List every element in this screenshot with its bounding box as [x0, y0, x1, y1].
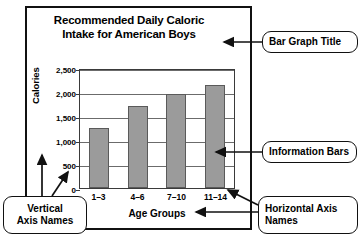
leader-xaxis-labels — [228, 190, 258, 205]
callout-bar-graph-title[interactable]: Bar Graph Title — [262, 31, 358, 53]
callout-horizontal-axis-names[interactable]: Horizontal Axis Names — [258, 196, 358, 234]
callout-bar-graph-title-label: Bar Graph Title — [269, 36, 341, 49]
callout-vertical-axis-line-1: Vertical — [27, 203, 63, 216]
callout-horizontal-axis-line-1: Horizontal Axis — [265, 203, 337, 216]
callout-information-bars-label: Information Bars — [269, 146, 349, 159]
callout-information-bars[interactable]: Information Bars — [262, 141, 357, 163]
figure-stage: Recommended Daily Caloric Intake for Ame… — [0, 0, 361, 243]
callout-vertical-axis-names[interactable]: Vertical Axis Names — [3, 196, 87, 234]
callout-vertical-axis-line-2: Axis Names — [17, 215, 74, 228]
leader-yaxis-ticks — [52, 172, 68, 196]
callout-horizontal-axis-line-2: Names — [265, 215, 298, 228]
